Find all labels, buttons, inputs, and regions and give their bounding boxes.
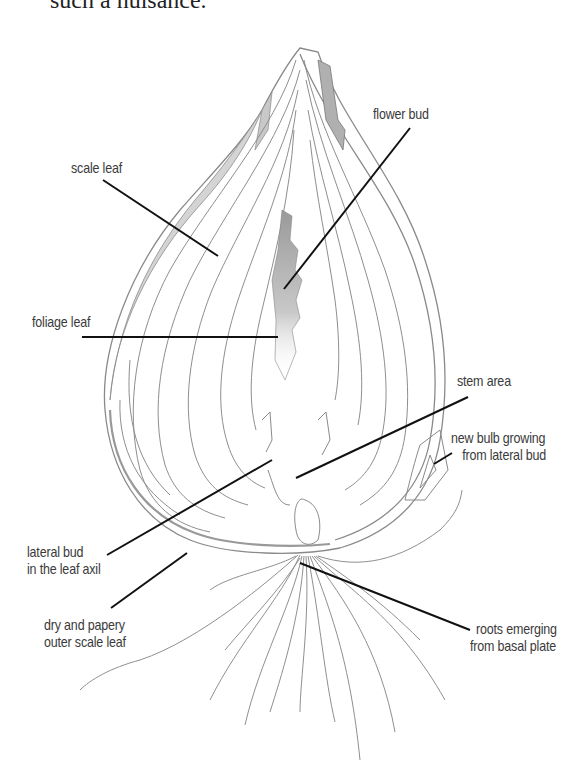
leader-scale-leaf	[103, 180, 218, 256]
label-flower-bud: flower bud	[373, 106, 429, 123]
label-lateral-bud: lateral bud in the leaf axil	[27, 544, 101, 578]
label-lateral-bud-line1: lateral bud	[27, 544, 101, 561]
label-dry-papery-line1: dry and papery	[44, 617, 126, 634]
label-dry-papery: dry and papery outer scale leaf	[44, 617, 126, 651]
leader-lines	[82, 128, 470, 630]
label-new-bulb: new bulb growing from lateral bud	[451, 430, 546, 464]
label-dry-papery-line2: outer scale leaf	[44, 634, 126, 651]
leader-flower-bud	[284, 128, 410, 289]
label-foliage-leaf: foliage leaf	[32, 314, 90, 331]
leader-lateral-bud	[107, 460, 272, 555]
flower-bud-shade	[272, 210, 302, 380]
label-new-bulb-line1: new bulb growing	[451, 430, 546, 447]
label-scale-leaf: scale leaf	[71, 160, 122, 177]
label-new-bulb-line2: from lateral bud	[451, 447, 546, 464]
label-roots: roots emerging from basal plate	[470, 621, 557, 655]
label-roots-line2: from basal plate	[470, 638, 557, 655]
roots	[80, 490, 462, 760]
label-roots-line1: roots emerging	[470, 621, 557, 638]
leader-dry-papery	[111, 553, 187, 608]
outer-scale-shade	[110, 110, 262, 400]
top-tip-shade	[318, 60, 345, 150]
label-lateral-bud-line2: in the leaf axil	[27, 561, 101, 578]
leader-stem-area	[296, 397, 468, 478]
label-stem-area: stem area	[457, 373, 511, 390]
